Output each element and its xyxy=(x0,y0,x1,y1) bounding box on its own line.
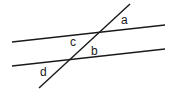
angle-label-c: c xyxy=(70,35,76,49)
angle-label-b: b xyxy=(91,44,98,58)
angle-label-d: d xyxy=(40,65,47,79)
parallel-line-upper xyxy=(12,25,165,42)
angle-label-a: a xyxy=(121,13,128,27)
transversal-line xyxy=(39,4,130,88)
parallel-line-lower xyxy=(12,49,165,66)
angle-diagram: a b c d xyxy=(0,0,181,90)
